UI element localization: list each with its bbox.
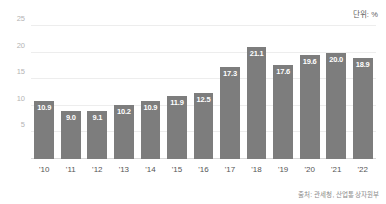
bar[interactable]: 9.0 — [61, 111, 81, 159]
bar-group: 10.2'13 — [114, 18, 134, 159]
bar[interactable]: 10.9 — [34, 101, 54, 159]
y-axis-tick-label: 20 — [17, 42, 25, 50]
bar-group: 12.5'16 — [194, 18, 214, 159]
bar-group: 19.6'20 — [300, 18, 320, 159]
bar[interactable]: 12.5 — [194, 93, 214, 160]
bar-value-label: 18.9 — [353, 61, 373, 69]
bar-value-label: 10.9 — [141, 104, 161, 112]
y-axis-tick-label: 25 — [17, 15, 25, 23]
bar[interactable]: 10.9 — [141, 101, 161, 159]
bar[interactable]: 19.6 — [300, 55, 320, 159]
bar[interactable]: 11.9 — [167, 96, 187, 159]
y-axis-tick-label: 15 — [17, 68, 25, 76]
bar-group: 18.9'22 — [353, 18, 373, 159]
bar-group: 11.9'15 — [167, 18, 187, 159]
bar-value-label: 17.3 — [220, 70, 240, 78]
bar[interactable]: 20.0 — [326, 53, 346, 159]
bar-group: 9.1'12 — [87, 18, 107, 159]
bar[interactable]: 21.1 — [247, 47, 267, 159]
bars-layer: 10.9'109.0'119.1'1210.2'1310.9'1411.9'15… — [31, 18, 376, 159]
bar-group: 17.3'17 — [220, 18, 240, 159]
bar-group: 20.0'21 — [326, 18, 346, 159]
bar-group: 9.0'11 — [61, 18, 81, 159]
bar-value-label: 12.5 — [194, 96, 214, 104]
bar-value-label: 21.1 — [247, 50, 267, 58]
bar-value-label: 17.6 — [273, 68, 293, 76]
bar-group: 21.1'18 — [247, 18, 267, 159]
bar[interactable]: 10.2 — [114, 105, 134, 159]
bar-value-label: 20.0 — [326, 56, 346, 64]
x-axis-tick-label: '22 — [346, 166, 380, 174]
bar-group: 10.9'10 — [34, 18, 54, 159]
source-note: 출처: 관세청, 산업통상자원부 — [298, 189, 379, 199]
bar-value-label: 19.6 — [300, 58, 320, 66]
bar-value-label: 11.9 — [167, 99, 187, 107]
bar-group: 10.9'14 — [141, 18, 161, 159]
bar-value-label: 10.2 — [114, 108, 134, 116]
bar-value-label: 10.9 — [34, 104, 54, 112]
bar[interactable]: 9.1 — [87, 111, 107, 159]
y-axis-tick-label: 10 — [17, 95, 25, 103]
bar-chart: 단위: % 510152025 10.9'109.0'119.1'1210.2'… — [0, 0, 386, 204]
bar[interactable]: 17.3 — [220, 67, 240, 159]
bar-group: 17.6'19 — [273, 18, 293, 159]
bar-value-label: 9.0 — [61, 114, 81, 122]
y-axis-tick-label: 5 — [21, 122, 25, 130]
bar[interactable]: 18.9 — [353, 58, 373, 159]
bar-value-label: 9.1 — [87, 114, 107, 122]
bar[interactable]: 17.6 — [273, 65, 293, 159]
plot-area: 510152025 10.9'109.0'119.1'1210.2'1310.9… — [31, 18, 376, 159]
